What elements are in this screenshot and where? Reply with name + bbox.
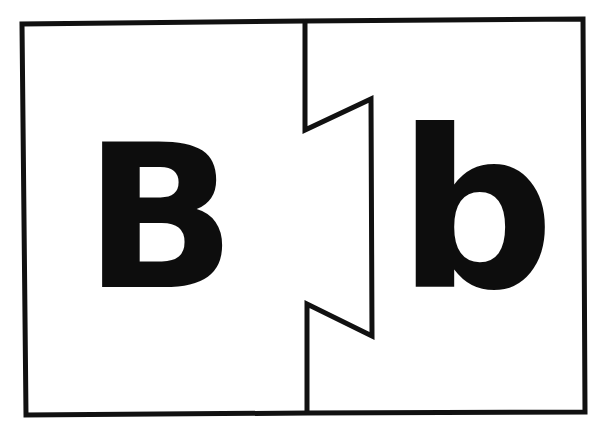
- lowercase-letter: b: [397, 83, 554, 339]
- puzzle-card: B b: [0, 0, 599, 430]
- uppercase-letter: B: [84, 101, 236, 334]
